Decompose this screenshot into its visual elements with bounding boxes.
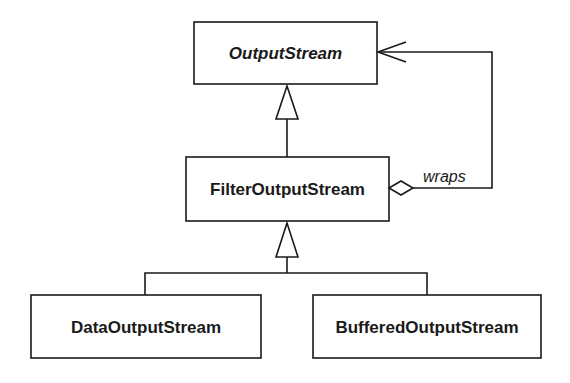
class-name-output-stream: OutputStream — [229, 44, 342, 63]
class-output-stream[interactable]: OutputStream — [194, 22, 377, 84]
aggregation-wraps: wraps — [378, 42, 492, 195]
generalization-triangle-icon — [276, 86, 298, 119]
class-name-data-output-stream: DataOutputStream — [71, 318, 221, 337]
generalization-branch-line — [145, 273, 427, 295]
class-name-filter-output-stream: FilterOutputStream — [210, 180, 365, 199]
class-filter-output-stream[interactable]: FilterOutputStream — [186, 157, 389, 221]
uml-class-diagram: OutputStream FilterOutputStream wraps Da… — [0, 0, 570, 383]
aggregation-label: wraps — [423, 168, 466, 185]
class-buffered-output-stream[interactable]: BufferedOutputStream — [313, 295, 541, 358]
class-data-output-stream[interactable]: DataOutputStream — [31, 295, 261, 358]
generalization-triangle-icon — [276, 223, 298, 257]
class-name-buffered-output-stream: BufferedOutputStream — [335, 318, 518, 337]
generalization-filter-to-output — [276, 86, 298, 157]
aggregation-diamond-icon — [389, 181, 413, 195]
generalization-subclasses-to-filter — [145, 223, 427, 295]
